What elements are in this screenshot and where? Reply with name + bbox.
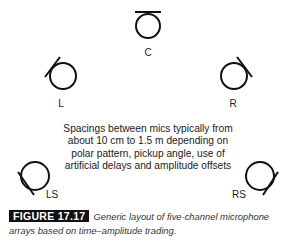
mic-c-icon <box>135 12 161 38</box>
mic-rs-icon <box>246 162 278 195</box>
mic-r-label: R <box>229 98 236 109</box>
mic-rs-label: RS <box>232 189 246 200</box>
mic-l-label: L <box>58 98 64 109</box>
spacing-note: Spacings between mics typically from abo… <box>62 123 234 173</box>
figure-number-tag: FIGURE 17.17 <box>9 210 89 222</box>
mic-ls-label: LS <box>46 189 59 200</box>
mic-ls-icon <box>18 162 49 195</box>
mic-r-icon <box>221 57 252 89</box>
mic-l-icon <box>45 57 76 89</box>
figure-caption: FIGURE 17.17Generic layout of five-chann… <box>9 210 291 237</box>
mic-c-label: C <box>144 47 151 58</box>
